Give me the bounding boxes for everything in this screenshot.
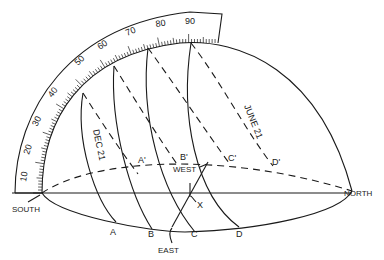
scale-tick [51,119,56,122]
scale-tick [108,61,110,64]
scale-tick [59,109,62,111]
scale-tick [41,148,47,149]
label-c: C [191,229,198,239]
scale-tick [75,87,78,90]
scale-tick [124,53,126,57]
scale-tick [41,160,45,161]
label-east: EAST [158,246,179,255]
scale-tick [89,71,93,76]
curve-d [188,43,239,227]
scale-tick [158,38,160,47]
scale-tick [105,63,107,66]
scale-tick [100,66,102,69]
east-arrow [170,228,172,243]
scale-tick [65,99,68,101]
x-arrow [191,196,196,202]
scale-tick [167,41,168,45]
scale-tick [86,77,89,80]
scale-tick [41,157,45,158]
label-south: SOUTH [12,205,40,214]
scale-tick [115,55,118,60]
label-d: D [236,229,243,239]
scale-tick [62,104,65,106]
scale-tick [52,123,56,125]
scale-label-10: 10 [18,171,30,183]
scale-tick [88,75,91,78]
scale-tick [42,151,46,152]
scale-tick [43,132,51,135]
scale-tick [119,56,121,60]
scale-tick [40,166,44,167]
scale-label-80: 80 [155,18,166,29]
scale-tick [68,93,73,97]
label-a-prime: A' [138,155,146,165]
scale-tick [55,117,59,119]
scale-tick [35,162,44,163]
horizon-front [42,191,352,232]
scale-tick [162,42,163,46]
dashed-a [83,93,138,174]
scale-tick [76,79,82,85]
scale-tick [81,81,84,84]
label-d-prime: D' [272,157,280,167]
scale-tick [73,90,76,93]
scale-tick [84,79,87,82]
scale-tick [165,41,166,45]
label-north: NORTH [344,189,373,198]
scale-tick [156,43,157,47]
label-a: A [110,227,116,237]
dashed-d [191,43,273,166]
scale-tick [71,92,74,95]
scale-tick [128,46,131,54]
scale-tick [153,44,154,48]
solid-curves [81,43,239,232]
scale-label-70: 70 [124,25,137,38]
scale-tick [46,140,50,141]
scale-tick [173,38,174,44]
scale-tick [46,137,50,138]
scale-label-20: 20 [21,143,34,156]
scale-tick [150,45,151,49]
scale-tick [144,44,146,50]
scale-label-40: 40 [46,85,60,99]
scale-tick [95,69,97,72]
scale-tick [138,48,139,52]
label-b-prime: B' [180,152,188,162]
sun-path-diagram: 10 20 30 40 50 60 70 80 90 A B C D A' B'… [0,0,384,260]
scale-tick [45,143,49,144]
scale-tick [122,54,124,58]
scale-tick [77,85,80,88]
scale-tick [51,125,55,127]
direction-labels: SOUTH NORTH EAST WEST [12,165,373,255]
scale-tick [141,47,142,51]
horizon-ellipse [12,164,352,232]
scale-label-90: 90 [185,16,195,26]
label-b: B [148,229,154,239]
scale-tick [50,128,54,129]
scale-label-60: 60 [95,38,109,52]
scale-tick [57,112,60,114]
scale-tick [98,67,100,70]
label-dec-21: DEC 21 [91,128,107,161]
scale-tick [48,131,52,132]
scale-tick [56,115,60,117]
label-west: WEST [173,165,196,174]
scale-tick [127,52,128,56]
scale-tick [133,50,134,54]
scale-tick [176,39,177,43]
scale-tick [111,60,113,64]
label-x: X [197,200,203,210]
south-arrow [28,195,40,202]
scale-tick [67,97,70,99]
scale-tick [93,71,95,74]
scale-label-50: 50 [72,53,86,67]
scale-tick [64,102,67,104]
label-c-prime: C' [228,153,236,163]
scale-tick [42,154,46,155]
scale-tick [44,145,48,146]
scale-tick [136,49,137,53]
scale-tick [113,58,115,62]
label-june-21: JUNE 21 [242,103,265,140]
scale-tick [170,40,171,44]
